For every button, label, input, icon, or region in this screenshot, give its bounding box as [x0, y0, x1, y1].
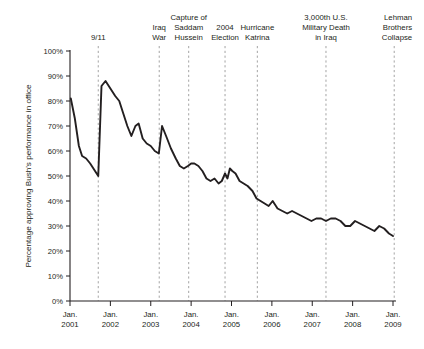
x-axis-tick-labels: Jan.2001Jan.2002Jan.2003Jan.2004Jan.2005…	[61, 310, 401, 329]
annotation-5: 3,000th U.S.Military Deathin Iraq	[302, 13, 350, 42]
x-tick-label-3: Jan.2004	[182, 310, 200, 329]
x-tick-label-6: Jan.2007	[304, 310, 321, 329]
y-tick-label-7: 70%	[48, 122, 63, 131]
y-tick-label-8: 80%	[48, 97, 63, 106]
approval-rating-chart: 0%10%20%30%40%50%60%70%80%90%100% Jan.20…	[0, 0, 424, 349]
event-annotation-labels: 9/11IraqWarCapture ofSaddamHussein2004El…	[91, 13, 412, 42]
y-tick-label-10: 100%	[44, 47, 64, 56]
y-tick-label-3: 30%	[48, 222, 63, 231]
y-tick-label-4: 40%	[48, 197, 63, 206]
y-tick-label-6: 60%	[48, 147, 63, 156]
annotation-4: HurricaneKatrina	[240, 23, 274, 42]
x-tick-label-1: Jan.2002	[102, 310, 119, 329]
annotation-1: IraqWar	[152, 23, 166, 42]
x-tick-label-0: Jan.2001	[61, 310, 78, 329]
x-tick-label-2: Jan.2003	[142, 310, 159, 329]
x-tick-label-8: Jan.2009	[384, 310, 401, 329]
x-tick-label-5: Jan.2006	[263, 310, 280, 329]
y-tick-label-5: 50%	[48, 172, 63, 181]
y-axis-tick-labels: 0%10%20%30%40%50%60%70%80%90%100%	[44, 47, 64, 306]
y-axis-ticks	[66, 51, 70, 301]
x-tick-label-7: Jan.2008	[344, 310, 361, 329]
annotation-0: 9/11	[91, 33, 106, 42]
x-tick-label-4: Jan.2005	[223, 310, 241, 329]
y-tick-label-1: 10%	[48, 272, 63, 281]
annotation-6: LehmanBrothersCollapse	[382, 13, 412, 42]
approval-line-series	[71, 81, 393, 236]
x-axis-ticks	[70, 301, 393, 306]
chart-svg: 0%10%20%30%40%50%60%70%80%90%100% Jan.20…	[0, 0, 424, 349]
annotation-3: 2004Election	[211, 23, 239, 42]
annotation-2: Capture ofSaddamHussein	[170, 13, 207, 42]
y-tick-label-0: 0%	[52, 297, 63, 306]
y-tick-label-2: 20%	[48, 247, 63, 256]
y-tick-label-9: 90%	[48, 72, 63, 81]
y-axis-title: Percentage approving Bush's performance …	[24, 84, 33, 268]
event-marker-lines	[98, 46, 394, 301]
